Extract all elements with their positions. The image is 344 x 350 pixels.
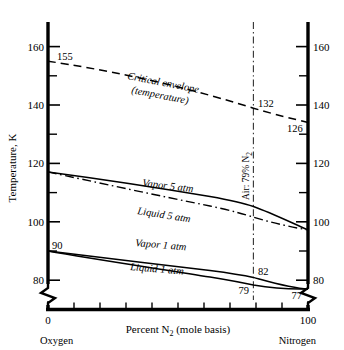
air-reference-label: Air: 79% N2: [241, 152, 254, 200]
y-axis-title: Temperature, K: [6, 134, 18, 203]
value-label-90: 90: [52, 240, 63, 251]
value-label-126: 126: [287, 123, 303, 134]
y-right-tick-label-160: 160: [313, 41, 330, 53]
value-label-132: 132: [258, 98, 274, 109]
curve-critical-envelope: [48, 61, 308, 122]
label-vapor-5atm: Vapor 5 atm: [142, 177, 195, 194]
value-label-155: 155: [57, 51, 73, 62]
label-liquid-1atm: Liquid 1 atm: [129, 261, 185, 277]
right-axis-major-ticks: [296, 47, 308, 281]
phase-diagram-chart: Temperature, K 160 140 120 100 80: [0, 0, 344, 350]
y-tick-label-120: 120: [28, 157, 45, 169]
figure-root: Temperature, K 160 140 120 100 80: [0, 0, 344, 350]
value-label-77: 77: [292, 290, 303, 301]
left-axis: 160 140 120 100 80: [28, 22, 61, 311]
y-right-tick-label-120: 120: [313, 157, 330, 169]
y-right-tick-label-100: 100: [313, 216, 330, 228]
x-axis-title: Percent N2 (mole basis): [126, 323, 231, 338]
y-tick-label-100: 100: [28, 216, 45, 228]
y-tick-label-80: 80: [33, 274, 45, 286]
y-right-tick-label-80: 80: [313, 274, 325, 286]
right-axis: 160 140 120 100 80: [296, 22, 330, 311]
y-right-tick-label-140: 140: [313, 99, 330, 111]
x-axis-right-corner-label: Nitrogen: [279, 335, 317, 346]
x-axis: 0 100 Percent N2 (mole basis) Oxygen Nit…: [40, 301, 317, 346]
x-tick-label-0: 0: [45, 314, 51, 326]
label-liquid-5atm: Liquid 5 atm: [136, 205, 192, 224]
label-vapor-1atm: Vapor 1 atm: [135, 237, 188, 252]
y-tick-label-140: 140: [28, 99, 45, 111]
y-tick-label-160: 160: [28, 41, 45, 53]
value-label-82: 82: [258, 266, 269, 277]
value-label-79: 79: [239, 285, 250, 296]
x-tick-label-100: 100: [300, 314, 317, 326]
x-axis-left-corner-label: Oxygen: [40, 335, 74, 346]
